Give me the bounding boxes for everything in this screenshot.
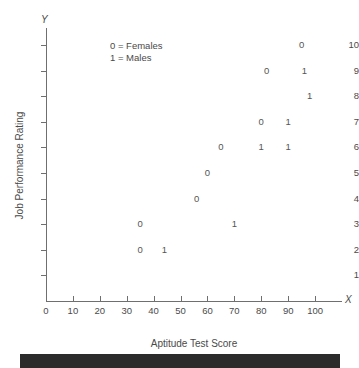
data-point: 1 bbox=[159, 245, 169, 255]
y-tick-2 bbox=[41, 250, 47, 251]
data-point: 0 bbox=[135, 219, 145, 229]
legend: 0 = Females 1 = Males bbox=[110, 40, 163, 63]
legend-item-females: 0 = Females bbox=[110, 40, 163, 52]
y-tick-9 bbox=[41, 71, 47, 72]
data-point: 1 bbox=[229, 219, 239, 229]
data-point: 0 bbox=[262, 66, 272, 76]
y-tick-4 bbox=[41, 199, 47, 200]
x-axis-title: Aptitude Test Score bbox=[46, 338, 342, 349]
y-tick-label-7: 7 bbox=[321, 117, 359, 127]
data-point: 0 bbox=[192, 194, 202, 204]
data-point: 0 bbox=[202, 168, 212, 178]
data-point: 0 bbox=[216, 142, 226, 152]
y-axis-line bbox=[46, 28, 47, 302]
x-axis-marker: X bbox=[345, 294, 352, 305]
data-point: 1 bbox=[283, 142, 293, 152]
data-point: 1 bbox=[256, 142, 266, 152]
x-tick-40 bbox=[154, 296, 155, 302]
x-tick-70 bbox=[234, 296, 235, 302]
x-tick-60 bbox=[207, 296, 208, 302]
y-axis-marker: Y bbox=[41, 14, 48, 25]
y-tick-8 bbox=[41, 96, 47, 97]
x-tick-90 bbox=[288, 296, 289, 302]
data-point: 0 bbox=[297, 40, 307, 50]
x-tick-20 bbox=[100, 296, 101, 302]
x-tick-label-30: 30 bbox=[112, 306, 142, 316]
y-tick-3 bbox=[41, 224, 47, 225]
x-tick-80 bbox=[261, 296, 262, 302]
y-tick-1 bbox=[41, 275, 47, 276]
x-tick-label-0: 0 bbox=[31, 306, 61, 316]
data-point: 0 bbox=[256, 117, 266, 127]
x-tick-label-60: 60 bbox=[192, 306, 222, 316]
y-tick-label-6: 6 bbox=[321, 142, 359, 152]
data-point: 0 bbox=[135, 245, 145, 255]
y-tick-label-4: 4 bbox=[321, 194, 359, 204]
x-tick-label-70: 70 bbox=[219, 306, 249, 316]
x-axis-line bbox=[46, 301, 342, 302]
y-tick-label-8: 8 bbox=[321, 91, 359, 101]
plot-area: Y X Job Performance Rating Aptitude Test… bbox=[0, 0, 359, 368]
y-tick-5 bbox=[41, 173, 47, 174]
x-tick-label-20: 20 bbox=[85, 306, 115, 316]
x-tick-label-50: 50 bbox=[166, 306, 196, 316]
y-tick-label-5: 5 bbox=[321, 168, 359, 178]
legend-item-males: 1 = Males bbox=[110, 52, 163, 64]
x-tick-100 bbox=[315, 296, 316, 302]
y-tick-label-10: 10 bbox=[321, 40, 359, 50]
y-tick-6 bbox=[41, 147, 47, 148]
x-tick-30 bbox=[127, 296, 128, 302]
y-tick-label-1: 1 bbox=[321, 270, 359, 280]
y-tick-label-9: 9 bbox=[321, 66, 359, 76]
x-tick-50 bbox=[181, 296, 182, 302]
x-tick-10 bbox=[73, 296, 74, 302]
y-axis-title: Job Performance Rating bbox=[14, 66, 25, 266]
y-tick-label-2: 2 bbox=[321, 245, 359, 255]
x-tick-label-90: 90 bbox=[273, 306, 303, 316]
x-tick-label-100: 100 bbox=[300, 306, 330, 316]
y-tick-label-3: 3 bbox=[321, 219, 359, 229]
data-point: 1 bbox=[299, 66, 309, 76]
data-point: 1 bbox=[283, 117, 293, 127]
x-tick-label-80: 80 bbox=[246, 306, 276, 316]
y-tick-7 bbox=[41, 122, 47, 123]
page-edge-band bbox=[20, 354, 340, 368]
scatter-plot-figure: Y X Job Performance Rating Aptitude Test… bbox=[0, 0, 359, 368]
x-tick-label-40: 40 bbox=[139, 306, 169, 316]
x-tick-label-10: 10 bbox=[58, 306, 88, 316]
data-point: 1 bbox=[305, 91, 315, 101]
y-tick-10 bbox=[41, 45, 47, 46]
